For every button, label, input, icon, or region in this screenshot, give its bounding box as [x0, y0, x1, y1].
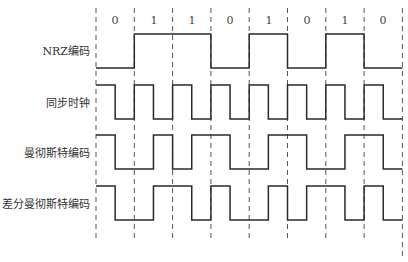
bit-label-6: 1	[342, 14, 349, 27]
clock-waveform	[96, 85, 402, 119]
bit-label-5: 0	[304, 14, 311, 27]
encoding-diagram: 0 1 1 0 1 0 1 0 NRZ编码 同步时钟 曼彻斯特编码 差分曼彻斯特…	[0, 0, 408, 262]
row-label-clock: 同步时钟	[46, 94, 90, 110]
row-label-nrz: NRZ编码	[42, 42, 90, 58]
nrz-waveform	[96, 34, 402, 68]
row-label-manchester: 曼彻斯特编码	[24, 144, 90, 160]
bit-label-1: 1	[151, 14, 158, 27]
bit-label-7: 0	[380, 14, 387, 27]
bit-label-3: 0	[227, 14, 234, 27]
row-label-diff-manchester: 差分曼彻斯特编码	[2, 195, 90, 211]
bit-label-0: 0	[112, 14, 119, 27]
bit-label-4: 1	[266, 14, 273, 27]
waveform-canvas	[0, 0, 408, 262]
bit-label-2: 1	[189, 14, 196, 27]
